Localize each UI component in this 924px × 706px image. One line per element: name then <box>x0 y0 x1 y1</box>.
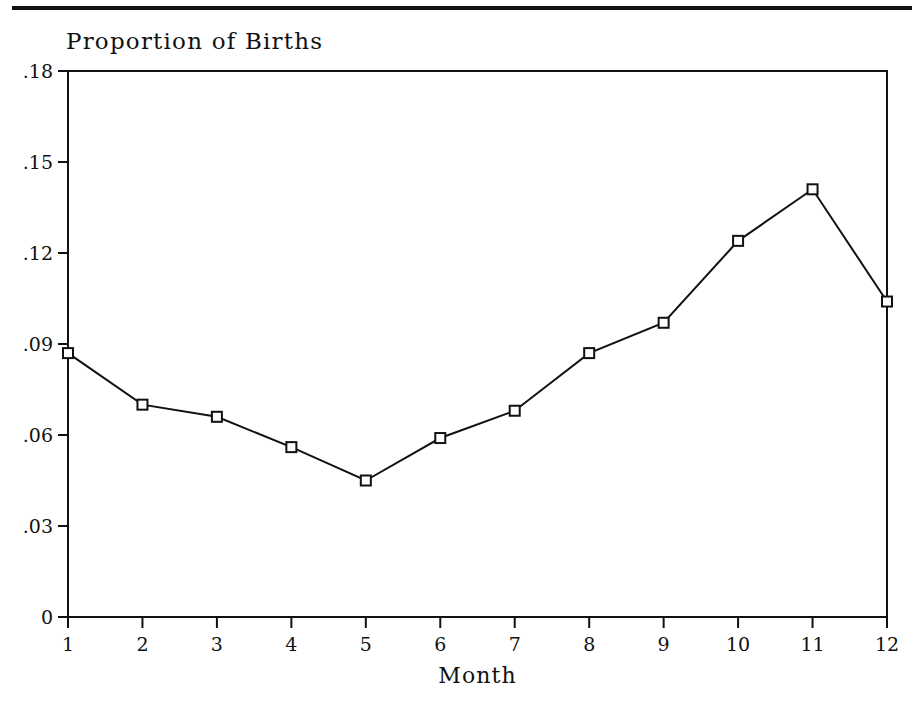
x-tick-label: 11 <box>800 633 824 655</box>
chart-page: Proportion of Births 0.03.06.09.12.15.18… <box>0 0 924 706</box>
x-tick-label: 10 <box>726 633 750 655</box>
x-tick-label: 9 <box>658 633 670 655</box>
x-tick-label: 3 <box>211 633 223 655</box>
y-tick-label: .06 <box>23 424 53 446</box>
data-point-marker <box>584 348 594 358</box>
y-tick-label: .09 <box>23 333 53 355</box>
x-tick-label: 12 <box>875 633 899 655</box>
data-point-marker <box>137 400 147 410</box>
marker-square <box>659 318 669 328</box>
x-tick-label: 5 <box>360 633 372 655</box>
marker-square <box>808 184 818 194</box>
y-tick-label: .15 <box>23 151 53 173</box>
data-point-marker <box>435 433 445 443</box>
marker-square <box>733 236 743 246</box>
data-point-marker <box>286 442 296 452</box>
line-chart-plot: 0.03.06.09.12.15.18 123456789101112 Mont… <box>0 0 924 706</box>
x-axis: 123456789101112 <box>62 617 899 655</box>
marker-square <box>882 297 892 307</box>
y-tick-label: .18 <box>23 60 53 82</box>
y-tick-label: .03 <box>23 515 53 537</box>
data-point-marker <box>659 318 669 328</box>
data-point-marker <box>361 476 371 486</box>
series-line <box>68 189 887 480</box>
x-tick-label: 8 <box>583 633 595 655</box>
x-tick-label: 6 <box>434 633 446 655</box>
marker-square <box>286 442 296 452</box>
data-point-marker <box>510 406 520 416</box>
y-axis: 0.03.06.09.12.15.18 <box>23 60 68 628</box>
marker-square <box>584 348 594 358</box>
y-tick-label: .12 <box>23 242 53 264</box>
x-tick-label: 4 <box>285 633 297 655</box>
data-series-births <box>63 184 892 485</box>
plot-frame <box>68 71 887 617</box>
marker-square <box>510 406 520 416</box>
data-point-marker <box>212 412 222 422</box>
x-tick-label: 1 <box>62 633 74 655</box>
x-tick-label: 2 <box>136 633 148 655</box>
data-point-marker <box>882 297 892 307</box>
x-tick-label: 7 <box>509 633 521 655</box>
marker-square <box>361 476 371 486</box>
data-point-marker <box>63 348 73 358</box>
x-axis-title: Month <box>438 663 516 688</box>
data-point-marker <box>733 236 743 246</box>
plot-border <box>68 71 887 617</box>
marker-square <box>435 433 445 443</box>
y-tick-label: 0 <box>41 606 53 628</box>
marker-square <box>212 412 222 422</box>
marker-square <box>137 400 147 410</box>
marker-square <box>63 348 73 358</box>
data-point-marker <box>808 184 818 194</box>
